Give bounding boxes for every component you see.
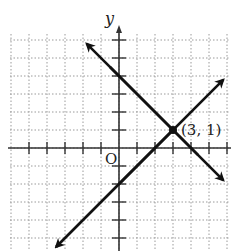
tick-marks: [29, 40, 227, 238]
origin-label: O: [105, 150, 117, 168]
y-axis-label: y: [104, 9, 115, 28]
intersection-point: [169, 126, 177, 134]
coordinate-plane: y O (3, 1): [0, 0, 239, 251]
plotted-lines: [56, 44, 223, 247]
point-label: (3, 1): [181, 121, 221, 139]
